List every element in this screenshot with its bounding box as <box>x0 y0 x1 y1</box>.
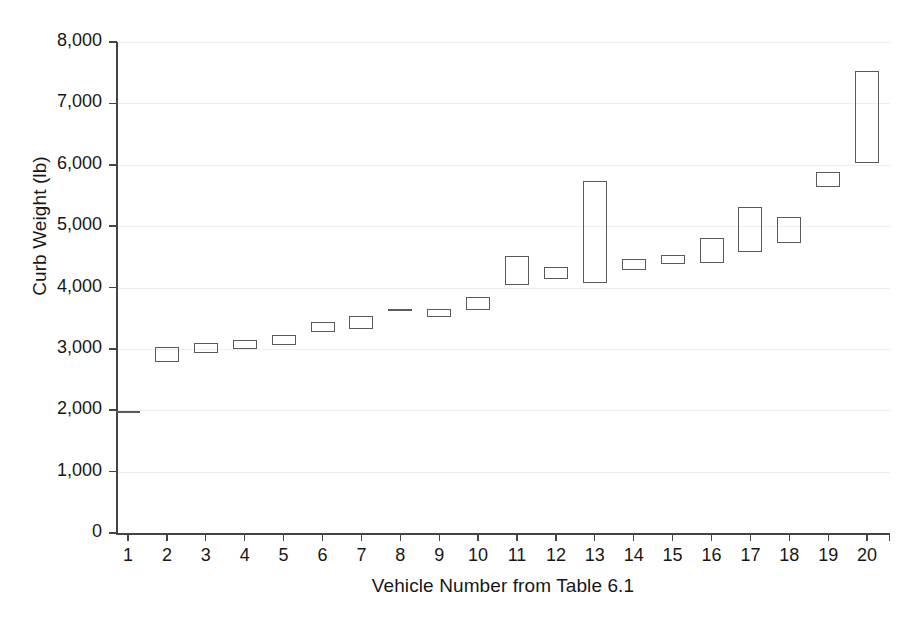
gridline <box>116 472 890 473</box>
x-axis-tick-label: 6 <box>308 545 338 566</box>
data-marker-dash <box>388 309 412 311</box>
x-axis-tick-label: 5 <box>269 545 299 566</box>
x-axis-tick-label: 8 <box>385 545 415 566</box>
y-axis-tick-label: 8,000 <box>12 30 102 51</box>
data-marker-box <box>700 238 724 263</box>
x-axis-tick-label: 2 <box>152 545 182 566</box>
y-axis-tick-label: 0 <box>12 521 102 542</box>
x-axis-title: Vehicle Number from Table 6.1 <box>128 575 878 597</box>
x-axis-tick-label: 20 <box>852 545 882 566</box>
data-marker-box <box>272 335 296 345</box>
y-axis-tick-label: 4,000 <box>12 276 102 297</box>
y-axis-tick-label: 2,000 <box>12 398 102 419</box>
data-marker-box <box>194 343 218 353</box>
data-marker-box <box>777 217 801 243</box>
gridline <box>116 42 890 43</box>
x-axis-tick-label: 14 <box>619 545 649 566</box>
data-marker-box <box>661 255 685 264</box>
x-axis-tick-label: 1 <box>113 545 143 566</box>
x-axis-tick-label: 7 <box>346 545 376 566</box>
data-marker-dash <box>116 411 140 413</box>
x-axis-tick-label: 11 <box>502 545 532 566</box>
data-marker-box <box>311 322 335 332</box>
chart-container: Curb Weight (lb) 01,0002,0003,0004,0005,… <box>0 0 906 621</box>
gridline <box>116 226 890 227</box>
x-axis-tick-label: 13 <box>580 545 610 566</box>
data-marker-box <box>466 297 490 310</box>
data-marker-box <box>349 316 373 330</box>
data-marker-box <box>544 267 568 279</box>
data-marker-box <box>505 256 529 285</box>
y-axis-line <box>116 42 118 534</box>
y-axis-tick-label: 5,000 <box>12 214 102 235</box>
y-axis-tick-label: 6,000 <box>12 153 102 174</box>
x-axis-tick-label: 4 <box>230 545 260 566</box>
x-axis-tick-label: 19 <box>813 545 843 566</box>
gridline <box>116 288 890 289</box>
gridline <box>116 410 890 411</box>
x-axis-tick-label: 10 <box>463 545 493 566</box>
x-axis-tick-label: 18 <box>774 545 804 566</box>
plot-area <box>116 42 890 533</box>
data-marker-box <box>427 309 451 317</box>
data-marker-box <box>155 347 179 362</box>
x-axis-tick-label: 15 <box>658 545 688 566</box>
data-marker-box <box>622 259 646 270</box>
data-marker-box <box>816 172 840 187</box>
y-axis-tick-label: 1,000 <box>12 460 102 481</box>
x-axis-tick-label: 17 <box>735 545 765 566</box>
gridline <box>116 103 890 104</box>
y-axis-tick-label: 3,000 <box>12 337 102 358</box>
data-marker-box <box>855 71 879 163</box>
x-axis-line <box>116 533 890 535</box>
x-axis-tick-label: 16 <box>697 545 727 566</box>
data-marker-box <box>233 340 257 349</box>
x-axis-tick-label: 12 <box>541 545 571 566</box>
x-axis-tick-label: 9 <box>424 545 454 566</box>
y-axis-tick-label: 7,000 <box>12 91 102 112</box>
data-marker-box <box>738 207 762 252</box>
x-axis-tick-label: 3 <box>191 545 221 566</box>
data-marker-box <box>583 181 607 283</box>
gridline <box>116 165 890 166</box>
